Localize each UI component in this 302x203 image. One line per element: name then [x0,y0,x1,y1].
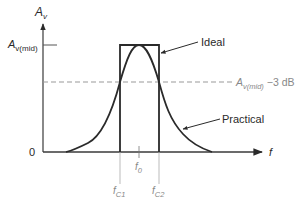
practical-callout-arrow [183,119,220,129]
practical-response [66,45,212,152]
fc1-label: fC1 [113,185,125,199]
ideal-label: Ideal [201,36,225,48]
y-axis-label: Av [34,5,48,21]
f0-label: f0 [135,161,143,175]
bandpass-response-diagram: Av Av(mid) Av(mid) −3 dB Ideal Practical… [0,0,302,203]
origin-label: 0 [29,146,35,158]
ideal-callout-arrow [161,42,198,53]
fc2-label: fC2 [152,185,165,199]
mid-gain-label: Av(mid) [7,38,38,53]
practical-label: Practical [222,113,264,125]
minus-3db-label: Av(mid) −3 dB [235,76,295,91]
x-axis-label: f [269,146,273,158]
